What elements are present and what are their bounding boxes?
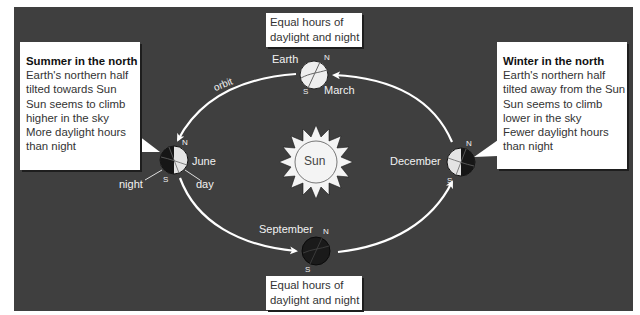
equinox-bottom-callout: Equal hours of daylight and night xyxy=(266,276,362,310)
equinox-bottom-line: Equal hours of xyxy=(270,278,358,293)
earth-label: Earth xyxy=(272,53,298,65)
summer-callout-line: More daylight hours xyxy=(26,125,135,139)
orbit-arrow-september-to-december xyxy=(338,182,452,252)
equinox-bottom-line: daylight and night xyxy=(270,293,358,308)
summer-callout-tail xyxy=(139,136,160,152)
september-label: September xyxy=(259,223,313,235)
earth-september-globe-icon xyxy=(302,237,330,265)
september-south-label: S xyxy=(305,265,310,274)
december-south-label: S xyxy=(447,176,452,185)
winter-callout-line: Earth's northern half xyxy=(503,68,622,82)
earth-june-globe-icon xyxy=(160,146,188,174)
summer-callout-line: tilted towards Sun xyxy=(26,82,135,96)
winter-callout: Winter in the north Earth's northern hal… xyxy=(497,42,627,169)
orbit-arrow-march-to-june xyxy=(178,74,296,140)
december-north-label: N xyxy=(466,139,472,148)
sun-label: Sun xyxy=(304,154,325,168)
winter-callout-line: Sun seems to climb xyxy=(503,97,622,111)
equinox-top-line: daylight and night xyxy=(270,30,358,45)
equinox-top-line: Equal hours of xyxy=(270,15,358,30)
march-north-label: N xyxy=(324,53,330,62)
day-label: day xyxy=(196,178,214,190)
winter-callout-tail xyxy=(474,140,498,157)
winter-callout-line: Fewer daylight hours xyxy=(503,125,622,139)
night-pointer-line xyxy=(145,170,162,180)
earth-december-globe-icon xyxy=(447,148,475,176)
winter-callout-line: lower in the sky xyxy=(503,111,622,125)
equinox-top-callout: Equal hours of daylight and night xyxy=(266,13,362,47)
march-label: March xyxy=(324,84,355,96)
summer-callout-line: than night xyxy=(26,139,135,153)
winter-callout-line: tilted away from the Sun xyxy=(503,82,622,96)
summer-callout-line: higher in the sky xyxy=(26,111,135,125)
winter-callout-line: than night xyxy=(503,139,622,153)
june-label: June xyxy=(192,155,216,167)
summer-callout-line: Sun seems to climb xyxy=(26,97,135,111)
summer-callout: Summer in the north Earth's northern hal… xyxy=(20,42,140,170)
june-north-label: N xyxy=(182,138,188,147)
september-north-label: N xyxy=(323,227,329,236)
summer-callout-title: Summer in the north xyxy=(26,54,135,68)
winter-callout-title: Winter in the north xyxy=(503,54,622,68)
summer-callout-line: Earth's northern half xyxy=(26,68,135,82)
june-south-label: S xyxy=(163,175,168,184)
night-label: night xyxy=(119,178,143,190)
december-label: December xyxy=(390,155,441,167)
march-south-label: S xyxy=(303,87,308,96)
